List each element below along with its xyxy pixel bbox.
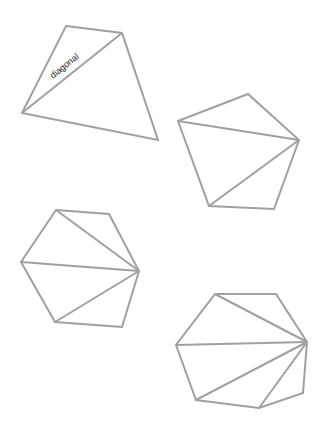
heptagon-diagonal-1 <box>215 294 307 342</box>
pentagon-group <box>178 94 299 209</box>
hexagon-group <box>21 210 139 327</box>
quadrilateral-group <box>22 26 158 140</box>
hexagon-diagonal-1 <box>56 210 139 271</box>
quadrilateral <box>22 26 158 140</box>
heptagon-group <box>176 294 307 408</box>
quadrilateral-diagonal-1 <box>22 33 122 113</box>
heptagon-diagonal-2 <box>176 342 307 345</box>
pentagon-diagonal-2 <box>209 140 299 206</box>
heptagon <box>176 294 307 408</box>
polygon-diagonals-diagram: diagonal <box>0 0 324 437</box>
heptagon-diagonal-3 <box>196 342 307 400</box>
hexagon-diagonal-2 <box>21 262 139 271</box>
diagonal-label: diagonal <box>48 51 81 80</box>
heptagon-diagonal-4 <box>259 342 307 408</box>
pentagon <box>178 94 299 209</box>
